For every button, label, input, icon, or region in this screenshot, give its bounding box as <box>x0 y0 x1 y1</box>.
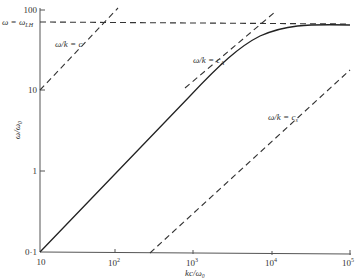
omega-lh-label: ω = ωLH <box>2 17 34 28</box>
light-line <box>40 8 118 90</box>
sound-line <box>150 70 350 253</box>
x-axis-title: kc/ω₀ <box>185 268 205 278</box>
y-tick-10: 10 <box>28 85 38 95</box>
dispersion-chart: 100 10 1 0·1 10 102 103 104 105 kc/ω₀ ω/… <box>0 0 359 279</box>
omega-lh-line <box>40 22 350 24</box>
alfven-line-label: ω/k = cA <box>193 55 224 66</box>
y-axis-title: ω/ω₀ <box>12 121 22 139</box>
y-ticks: 100 10 1 0·1 <box>24 5 46 257</box>
y-tick-100: 100 <box>24 5 38 15</box>
x-tick-10: 10 <box>37 257 47 267</box>
x-tick-1000: 103 <box>186 257 198 268</box>
sound-line-label: ω/k = cs <box>268 112 298 123</box>
x-tick-100000: 105 <box>342 257 354 268</box>
light-line-label: ω/k = c <box>55 39 82 49</box>
y-tick-1: 1 <box>33 166 38 176</box>
x-tick-10000: 104 <box>265 257 277 268</box>
x-tick-100: 102 <box>108 257 120 268</box>
y-tick-0-1: 0·1 <box>25 247 37 257</box>
x-axis <box>40 252 351 254</box>
